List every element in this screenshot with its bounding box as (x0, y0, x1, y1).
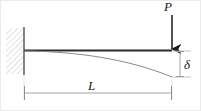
cantilever-beam-figure: P L δ (0, 0, 201, 111)
length-label: L (88, 79, 95, 92)
wall-hatching (6, 28, 24, 74)
beam-deflected-curve (24, 51, 172, 77)
deflection-label: δ (184, 58, 190, 71)
load-label: P (164, 0, 172, 13)
figure-canvas (0, 0, 201, 111)
figure-border (1, 1, 201, 111)
